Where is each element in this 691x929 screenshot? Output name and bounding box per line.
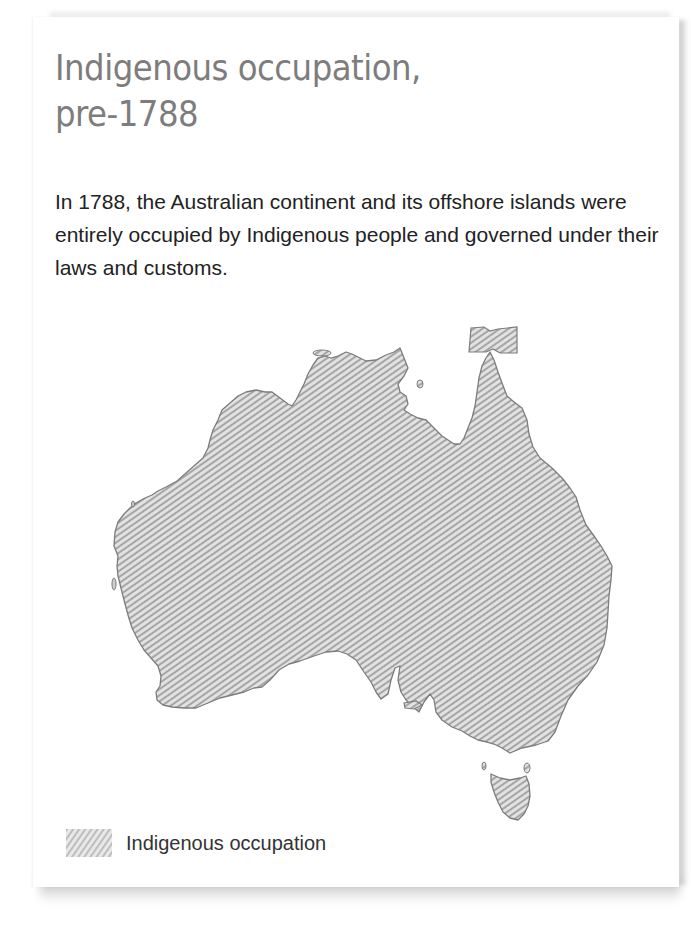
groote-eylandt xyxy=(417,380,423,388)
shark-bay-island xyxy=(112,578,116,590)
flinders-island xyxy=(524,763,530,773)
melville-island xyxy=(313,350,331,356)
king-island xyxy=(482,762,486,770)
torres-strait-islands xyxy=(469,327,517,353)
barrow-island xyxy=(132,501,135,507)
mainland-australia xyxy=(114,348,612,753)
australia-map xyxy=(0,0,691,929)
tasmania xyxy=(491,774,530,820)
